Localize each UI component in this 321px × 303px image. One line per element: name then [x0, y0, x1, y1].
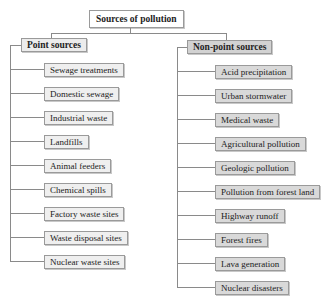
branch-connector — [10, 213, 44, 214]
leaf-label: Forest fires — [221, 235, 262, 245]
leaf-label: Animal feeders — [50, 161, 105, 171]
leaf-label: Medical waste — [221, 115, 273, 125]
branch-connector — [10, 237, 44, 238]
leaf-node: Factory waste sites — [44, 207, 124, 221]
leaf-node: Geologic pollution — [215, 161, 295, 175]
branch-connector — [10, 69, 44, 70]
branch-connector — [177, 287, 215, 288]
point-trunk — [10, 45, 11, 262]
leaf-node: Landfills — [44, 135, 89, 149]
leaf-node: Sewage treatments — [44, 63, 124, 77]
branch-connector — [177, 71, 215, 72]
nonpoint-trunk-connector — [177, 47, 187, 48]
branch-connector — [177, 95, 215, 96]
branch-connector — [177, 143, 215, 144]
leaf-node: Lava generation — [215, 257, 285, 271]
leaf-label: Industrial waste — [50, 113, 107, 123]
leaf-label: Domestic sewage — [50, 89, 113, 99]
leaf-node: Industrial waste — [44, 111, 113, 125]
branch-connector — [177, 167, 215, 168]
branch-connector — [177, 119, 215, 120]
branch-connector — [10, 93, 44, 94]
leaf-label: Nuclear waste sites — [50, 257, 119, 267]
branch-connector — [10, 261, 44, 262]
leaf-node: Medical waste — [215, 113, 279, 127]
leaf-label: Landfills — [50, 137, 83, 147]
leaf-label: Acid precipitation — [221, 67, 286, 77]
branch-connector — [10, 165, 44, 166]
leaf-label: Factory waste sites — [50, 209, 118, 219]
leaf-node: Nuclear waste sites — [44, 255, 125, 269]
category-non-point-sources: Non-point sources — [187, 40, 272, 54]
root-label: Sources of pollution — [96, 14, 177, 24]
category-point-sources: Point sources — [21, 38, 87, 52]
leaf-node: Acid precipitation — [215, 65, 292, 79]
branch-connector — [10, 117, 44, 118]
leaf-node: Pollution from forest land — [215, 185, 320, 199]
root-node: Sources of pollution — [89, 10, 184, 28]
leaf-label: Chemical spills — [50, 185, 106, 195]
category-label: Non-point sources — [193, 42, 266, 52]
leaf-label: Waste disposal sites — [50, 233, 122, 243]
category-label: Point sources — [27, 40, 81, 50]
leaf-node: Forest fires — [215, 233, 268, 247]
leaf-label: Highway runoff — [221, 211, 279, 221]
leaf-label: Pollution from forest land — [221, 187, 314, 197]
leaf-label: Urban stormwater — [221, 91, 286, 101]
nonpoint-stem — [226, 33, 227, 40]
leaf-label: Nuclear disasters — [221, 283, 283, 293]
leaf-node: Highway runoff — [215, 209, 285, 223]
leaf-label: Agricultural pollution — [221, 139, 300, 149]
leaf-node: Domestic sewage — [44, 87, 119, 101]
leaf-node: Waste disposal sites — [44, 231, 128, 245]
leaf-node: Chemical spills — [44, 183, 112, 197]
leaf-node: Animal feeders — [44, 159, 111, 173]
branch-connector — [177, 263, 215, 264]
branch-connector — [177, 191, 215, 192]
leaf-label: Lava generation — [221, 259, 279, 269]
leaf-label: Geologic pollution — [221, 163, 289, 173]
branch-connector — [177, 215, 215, 216]
branch-connector — [10, 141, 44, 142]
leaf-label: Sewage treatments — [50, 65, 118, 75]
branch-connector — [10, 189, 44, 190]
leaf-node: Urban stormwater — [215, 89, 292, 103]
leaf-node: Nuclear disasters — [215, 281, 289, 295]
point-trunk-connector — [10, 45, 21, 46]
branch-connector — [177, 239, 215, 240]
leaf-node: Agricultural pollution — [215, 137, 306, 151]
root-branch — [51, 33, 226, 34]
